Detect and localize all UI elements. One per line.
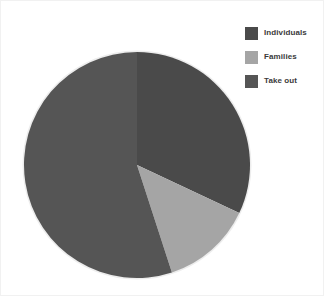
pie-slice-group	[24, 52, 250, 278]
legend-label-individuals: Individuals	[264, 28, 307, 38]
legend-swatch-families	[245, 51, 258, 64]
legend-label-families: Families	[264, 52, 297, 62]
legend-swatch-individuals	[245, 27, 258, 40]
legend-label-take-out: Take out	[264, 76, 297, 86]
pie-chart-figure: Individuals Families Take out	[0, 0, 324, 296]
pie-plot-area	[22, 50, 252, 280]
chart-legend: Individuals Families Take out	[245, 22, 321, 94]
legend-swatch-take-out	[245, 75, 258, 88]
pie-svg	[22, 50, 252, 280]
legend-item-individuals[interactable]: Individuals	[245, 22, 321, 44]
legend-item-families[interactable]: Families	[245, 46, 321, 68]
legend-item-take-out[interactable]: Take out	[245, 70, 321, 92]
